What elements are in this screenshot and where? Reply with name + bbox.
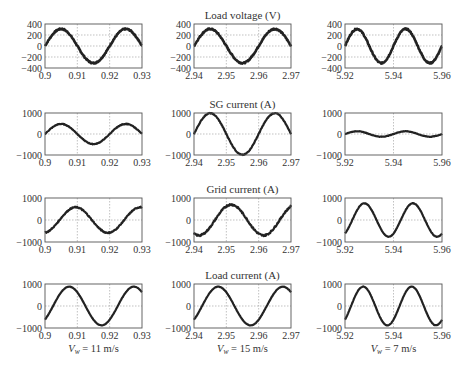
subplot: 4002000−200−4000.90.910.920.93 xyxy=(21,19,150,82)
wind-speed-caption: Vw = 7 m/s xyxy=(371,343,417,356)
x-tick-label: 2.97 xyxy=(282,70,300,81)
subplot: 10000−10000.90.910.920.93 xyxy=(16,279,150,342)
subplot-grid: Load voltage (V)4002000−200−4000.90.910.… xyxy=(0,0,463,373)
y-tick-label: 400 xyxy=(27,19,42,30)
x-tick-label: 0.93 xyxy=(133,70,151,81)
x-tick-label: 0.9 xyxy=(39,244,52,255)
y-tick-label: 0 xyxy=(37,41,42,52)
y-tick-label: 0 xyxy=(186,301,191,312)
y-tick-label: 400 xyxy=(327,19,342,30)
x-tick-label: 0.93 xyxy=(133,244,151,255)
y-tick-label: 1000 xyxy=(322,193,342,204)
y-tick-label: −200 xyxy=(21,52,42,63)
x-tick-label: 5.92 xyxy=(336,157,354,168)
x-tick-label: 2.94 xyxy=(185,330,203,341)
x-tick-label: 0.92 xyxy=(101,244,119,255)
x-tick-label: 5.92 xyxy=(336,244,354,255)
subplot: 4002000−200−4002.942.952.962.97 xyxy=(170,19,299,82)
y-tick-label: 1000 xyxy=(171,108,191,119)
x-tick-label: 2.94 xyxy=(185,157,203,168)
x-tick-label: 0.93 xyxy=(133,157,151,168)
waveform-figure: Load voltage (V)4002000−200−4000.90.910.… xyxy=(0,0,463,373)
x-tick-label: 5.96 xyxy=(433,70,451,81)
x-tick-label: 2.97 xyxy=(282,244,300,255)
x-tick-label: 0.91 xyxy=(69,70,87,81)
y-tick-label: 0 xyxy=(37,129,42,140)
x-tick-label: 0.9 xyxy=(39,157,52,168)
y-tick-label: 0 xyxy=(337,301,342,312)
subplot: 10000−10002.942.952.962.97 xyxy=(165,279,299,342)
x-tick-label: 2.96 xyxy=(250,157,268,168)
y-tick-label: 1000 xyxy=(171,279,191,290)
x-tick-label: 5.94 xyxy=(385,70,403,81)
y-tick-label: 1000 xyxy=(171,193,191,204)
subplot: 10000−10000.90.910.920.93 xyxy=(16,193,150,256)
y-tick-label: 200 xyxy=(27,30,42,41)
subplot: 4002000−200−4005.925.945.96 xyxy=(321,19,450,82)
y-tick-label: 0 xyxy=(186,215,191,226)
subplot-title: Grid current (A) xyxy=(206,183,278,196)
y-tick-label: 0 xyxy=(337,41,342,52)
x-tick-label: 0.92 xyxy=(101,157,119,168)
x-tick-label: 5.96 xyxy=(433,330,451,341)
y-tick-label: −200 xyxy=(170,52,191,63)
y-tick-label: 200 xyxy=(176,30,191,41)
x-tick-label: 2.96 xyxy=(250,330,268,341)
y-tick-label: 0 xyxy=(37,215,42,226)
subplot: 10000−10000.90.910.920.93 xyxy=(16,108,150,169)
x-tick-label: 2.95 xyxy=(218,70,236,81)
x-tick-label: 2.97 xyxy=(282,330,300,341)
y-tick-label: 0 xyxy=(186,41,191,52)
subplot-title: SG current (A) xyxy=(210,98,276,111)
subplot: 10000−10005.925.945.96 xyxy=(316,193,450,256)
x-tick-label: 0.9 xyxy=(39,330,52,341)
x-tick-label: 2.97 xyxy=(282,157,300,168)
x-tick-label: 2.94 xyxy=(185,244,203,255)
y-tick-label: 200 xyxy=(327,30,342,41)
subplot-title: Load voltage (V) xyxy=(205,9,281,22)
x-tick-label: 0.91 xyxy=(69,330,87,341)
subplot: 10000−10002.942.952.962.97 xyxy=(165,193,299,256)
x-tick-label: 0.91 xyxy=(69,157,87,168)
y-tick-label: 0 xyxy=(337,215,342,226)
x-tick-label: 0.93 xyxy=(133,330,151,341)
x-tick-label: 5.96 xyxy=(433,244,451,255)
x-tick-label: 2.96 xyxy=(250,244,268,255)
y-tick-label: 0 xyxy=(186,129,191,140)
subplot-title: Load current (A) xyxy=(205,269,280,282)
x-tick-label: 5.92 xyxy=(336,330,354,341)
x-tick-label: 2.96 xyxy=(250,70,268,81)
y-tick-label: 1000 xyxy=(322,279,342,290)
x-tick-label: 5.94 xyxy=(385,244,403,255)
x-tick-label: 0.92 xyxy=(101,70,119,81)
x-tick-label: 2.95 xyxy=(218,157,236,168)
y-tick-label: 0 xyxy=(337,129,342,140)
y-tick-label: 1000 xyxy=(322,108,342,119)
y-tick-label: −200 xyxy=(321,52,342,63)
subplot: 10000−10002.942.952.962.97 xyxy=(165,108,299,169)
x-tick-label: 5.94 xyxy=(385,330,403,341)
wind-speed-caption: Vw = 11 m/s xyxy=(68,343,119,356)
x-tick-label: 0.91 xyxy=(69,244,87,255)
y-tick-label: 1000 xyxy=(22,108,42,119)
subplot: 10000−10005.925.945.96 xyxy=(316,108,450,169)
x-tick-label: 2.94 xyxy=(185,70,203,81)
wind-speed-caption: Vw = 15 m/s xyxy=(217,343,268,356)
x-tick-label: 2.95 xyxy=(218,330,236,341)
y-tick-label: 0 xyxy=(37,301,42,312)
x-tick-label: 2.95 xyxy=(218,244,236,255)
y-tick-label: 1000 xyxy=(22,193,42,204)
subplot: 10000−10005.925.945.96 xyxy=(316,279,450,342)
x-tick-label: 5.92 xyxy=(336,70,354,81)
x-tick-label: 5.94 xyxy=(385,157,403,168)
y-tick-label: 1000 xyxy=(22,279,42,290)
x-tick-label: 0.9 xyxy=(39,70,52,81)
y-tick-label: 400 xyxy=(176,19,191,30)
x-tick-label: 0.92 xyxy=(101,330,119,341)
x-tick-label: 5.96 xyxy=(433,157,451,168)
